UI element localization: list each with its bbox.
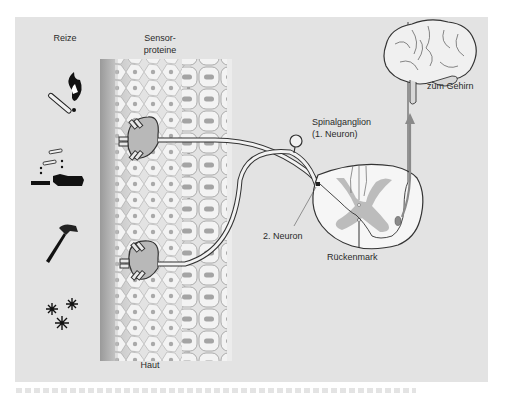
label-sensor-proteins-line2: proteine	[130, 45, 190, 56]
cropped-caption	[16, 388, 416, 393]
snowflakes-icon	[46, 298, 78, 330]
label-to-brain: zum Gehirn	[427, 81, 474, 92]
label-skin: Haut	[125, 360, 175, 371]
label-stimuli: Reize	[40, 33, 90, 44]
arrow-up-icon	[405, 113, 415, 124]
skin-tissue	[100, 59, 232, 361]
hammer-icon	[46, 224, 78, 263]
acid-chemical-icon	[31, 149, 84, 186]
label-sensor-proteins-line1: Sensor-	[130, 33, 190, 44]
label-spinal-cord: Rückenmark	[327, 252, 378, 263]
label-second-neuron: 2. Neuron	[263, 231, 303, 242]
label-first-neuron: (1. Neuron)	[312, 129, 358, 140]
match-flame-icon	[48, 72, 82, 114]
label-spinal-ganglion: Spinalganglion	[312, 117, 371, 128]
second-neuron-pointer	[294, 187, 316, 226]
nociception-diagram	[0, 0, 506, 393]
